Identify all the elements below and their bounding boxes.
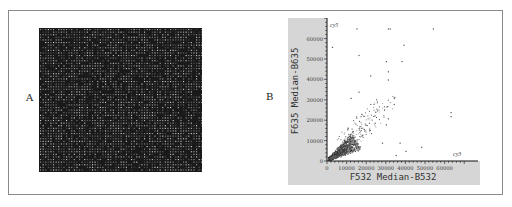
microarray-grid — [39, 28, 202, 172]
svg-text:50000: 50000 — [417, 165, 434, 171]
svg-text:30000: 30000 — [306, 97, 323, 103]
svg-text:0: 0 — [320, 158, 323, 164]
scatter-plot: 0100002000030000400005000060000010000200… — [288, 18, 480, 185]
svg-text:30000: 30000 — [378, 165, 395, 171]
cy3-annotation: cy3 — [453, 151, 461, 157]
svg-text:40000: 40000 — [397, 165, 414, 171]
panel-label-b: B — [266, 91, 273, 102]
svg-text:20000: 20000 — [306, 117, 323, 123]
svg-text:50000: 50000 — [306, 56, 323, 62]
microarray-image — [39, 28, 202, 172]
svg-text:20000: 20000 — [358, 165, 375, 171]
panel-label-a: A — [26, 92, 33, 103]
y-axis-title: F635 Median-B635 — [290, 48, 300, 135]
scatter-plot-canvas: 0100002000030000400005000060000010000200… — [288, 18, 480, 185]
svg-text:0: 0 — [325, 165, 328, 171]
svg-text:40000: 40000 — [306, 76, 323, 82]
x-axis-title: F532 Median-B532 — [350, 172, 437, 182]
svg-text:60000: 60000 — [306, 36, 323, 42]
svg-text:60000: 60000 — [436, 165, 453, 171]
svg-text:10000: 10000 — [338, 165, 355, 171]
svg-text:10000: 10000 — [306, 138, 323, 144]
cy5-annotation: cy5 — [330, 22, 338, 28]
